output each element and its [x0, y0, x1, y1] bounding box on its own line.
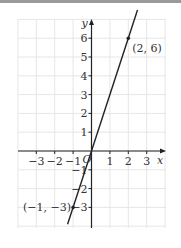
x-axis-label: x [157, 154, 164, 167]
point-label: (2, 6) [132, 42, 162, 55]
y-axis-label: y [81, 17, 89, 30]
tick-labels: −3−2−1123−3−2−1123456 [28, 32, 150, 214]
y-tick-label: 4 [81, 70, 88, 83]
y-tick-label: 1 [81, 126, 88, 139]
y-tick-label: 3 [81, 89, 88, 102]
origin-label: O [83, 153, 92, 166]
data-point [127, 36, 131, 40]
x-tick-label: −3 [28, 155, 44, 168]
point-label: (−1, −3) [23, 201, 71, 214]
x-tick-label: 1 [106, 155, 113, 168]
x-tick-label: 2 [125, 155, 132, 168]
x-tick-label: 3 [143, 155, 150, 168]
y-tick-label: 6 [81, 32, 88, 45]
data-point [71, 206, 75, 210]
y-tick-label: 2 [81, 107, 88, 120]
data-points: (2, 6)(−1, −3) [23, 36, 162, 214]
line-graph: −3−2−1123−3−2−1123456 (2, 6)(−1, −3) x y… [0, 0, 181, 248]
x-tick-label: −2 [47, 155, 63, 168]
series-line [68, 10, 138, 224]
y-tick-label: 5 [81, 51, 88, 64]
